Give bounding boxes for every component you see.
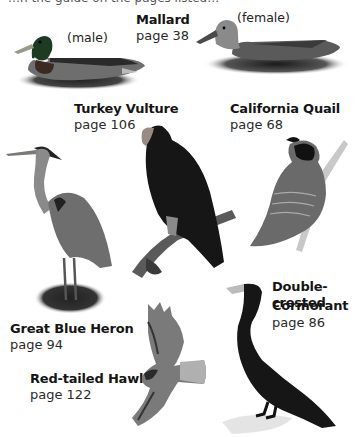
mallard-name: Mallard (136, 12, 190, 28)
turkey-vulture-name: Turkey Vulture (74, 101, 178, 117)
turkey-vulture-page: page 106 (74, 117, 135, 133)
double-crested-cormorant-image (222, 282, 352, 437)
red-tailed-hawk-image (124, 302, 210, 430)
female-label: (female) (237, 10, 290, 25)
california-quail-name: California Quail (230, 101, 340, 117)
mallard-page: page 38 (136, 28, 189, 44)
male-label: (male) (67, 30, 108, 45)
california-quail-image (246, 134, 358, 256)
red-tailed-hawk-page: page 122 (30, 387, 91, 403)
great-blue-heron-page: page 94 (10, 337, 63, 353)
cut-off-header-text: …n the guide on the pages listed… (8, 0, 219, 5)
great-blue-heron-image (4, 142, 114, 314)
great-blue-heron-name: Great Blue Heron (10, 321, 133, 337)
turkey-vulture-image (128, 122, 240, 282)
